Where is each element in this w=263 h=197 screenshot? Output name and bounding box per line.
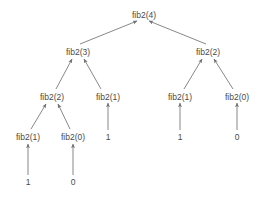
tree-edge-arrow xyxy=(214,59,233,89)
tree-node-fib2-1-l4: fib2(1) xyxy=(16,132,40,142)
tree-edge-arrow xyxy=(80,21,137,44)
tree-edge-arrow xyxy=(31,104,46,129)
tree-node-fib2-4: fib2(4) xyxy=(132,10,156,20)
tree-leaf-value-1-mid: 1 xyxy=(106,132,111,142)
tree-node-fib2-0-r3: fib2(0) xyxy=(225,92,249,102)
tree-node-fib2-3: fib2(3) xyxy=(66,47,90,57)
tree-node-fib2-1-l3: fib2(1) xyxy=(96,92,120,102)
tree-node-fib2-2-right: fib2(2) xyxy=(196,47,220,57)
tree-edge-arrow xyxy=(84,59,101,89)
tree-node-fib2-0-l4: fib2(0) xyxy=(61,132,85,142)
tree-node-fib2-2-left: fib2(2) xyxy=(40,92,64,102)
tree-leaf-value-0-right: 0 xyxy=(235,132,240,142)
tree-leaf-value-1-bottom: 1 xyxy=(26,177,31,187)
tree-edge-arrow xyxy=(58,104,70,129)
tree-node-fib2-1-r3: fib2(1) xyxy=(168,92,192,102)
recursion-tree-diagram: fib2(4) fib2(3) fib2(2) fib2(2) fib2(1) … xyxy=(0,0,263,197)
tree-leaf-value-1-right: 1 xyxy=(178,132,183,142)
tree-edge-arrow xyxy=(184,59,202,89)
tree-leaf-value-0-bottom: 0 xyxy=(71,177,76,187)
tree-edge-arrow xyxy=(56,59,72,89)
tree-edge-arrow xyxy=(149,21,206,44)
